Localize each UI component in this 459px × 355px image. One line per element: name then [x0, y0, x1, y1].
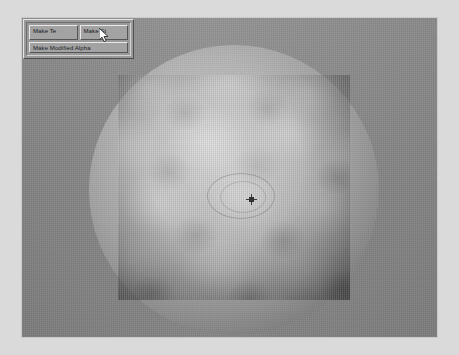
make-te-button[interactable]: Make Te	[29, 25, 78, 40]
texture-tool-panel-inner: Make Te Make St Make Modified Alpha	[26, 22, 131, 56]
panel-button-row-bottom: Make Modified Alpha	[29, 42, 128, 53]
render-viewport[interactable]	[22, 18, 437, 337]
texture-tool-panel[interactable]: Make Te Make St Make Modified Alpha	[23, 19, 134, 59]
marker-arc-inner	[220, 181, 266, 213]
app-root: Make Te Make St Make Modified Alpha	[0, 0, 459, 355]
make-st-button[interactable]: Make St	[80, 25, 129, 40]
make-modified-alpha-button[interactable]: Make Modified Alpha	[29, 42, 128, 53]
panel-button-row-top: Make Te Make St	[29, 25, 128, 40]
